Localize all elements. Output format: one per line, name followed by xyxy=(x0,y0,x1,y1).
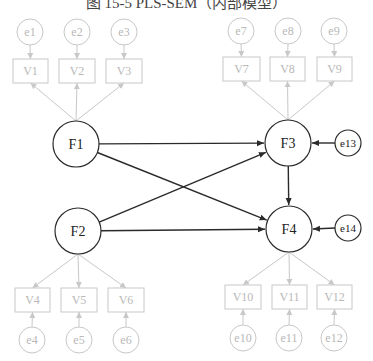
error-label: e9 xyxy=(328,24,339,38)
indicator-v11: V11e11 xyxy=(272,252,307,351)
error-label: e13 xyxy=(340,137,356,149)
loading-arrow xyxy=(33,254,79,288)
indicator-label: V2 xyxy=(70,64,85,78)
error-label: e3 xyxy=(118,25,129,39)
error-label: e10 xyxy=(234,331,251,345)
error-arrow xyxy=(334,44,335,57)
error-label: e2 xyxy=(71,25,82,39)
latent-label: F1 xyxy=(69,137,84,152)
loading-arrow xyxy=(78,254,79,288)
error-arrow xyxy=(334,309,335,325)
indicator-label: V8 xyxy=(280,62,295,76)
latent-f1: F1 xyxy=(53,121,99,167)
structural-error-e14: e14 xyxy=(313,215,361,241)
measurement-model: V1e1V2e2V3e3V4e4V5e5V6e6V7e7V8e8V9e9V10e… xyxy=(13,18,352,353)
path-f2-f4 xyxy=(101,229,265,231)
error-label: e12 xyxy=(325,331,342,345)
loading-arrow xyxy=(76,83,77,121)
loading-arrow xyxy=(242,81,289,120)
error-arrow xyxy=(30,45,31,59)
indicator-v8: V8e8 xyxy=(270,18,305,120)
indicator-v2: V2e2 xyxy=(59,19,95,121)
error-label: e6 xyxy=(120,333,131,347)
error-label: e5 xyxy=(73,333,84,347)
loading-arrow xyxy=(78,254,126,288)
error-label: e8 xyxy=(282,24,293,38)
error-label: e4 xyxy=(26,333,37,347)
indicator-label: V10 xyxy=(233,290,254,304)
indicator-label: V9 xyxy=(327,62,342,76)
error-label: e7 xyxy=(235,24,246,38)
error-arrow xyxy=(289,309,290,325)
error-arrow xyxy=(288,44,289,57)
latent-f3: F3 xyxy=(265,120,311,166)
latent-label: F4 xyxy=(282,222,297,237)
structural-error-e13: e13 xyxy=(312,130,361,156)
indicator-v5: V5e5 xyxy=(61,254,97,353)
loading-arrow xyxy=(288,81,289,120)
indicator-label: V1 xyxy=(23,64,38,78)
error-label: e1 xyxy=(24,25,35,39)
indicator-label: V3 xyxy=(117,64,132,78)
loading-arrow xyxy=(243,252,289,285)
indicator-label: V6 xyxy=(119,293,134,307)
error-label: e14 xyxy=(340,222,356,234)
loading-arrow xyxy=(76,83,124,121)
indicator-label: V12 xyxy=(324,290,345,304)
structural-model: e13e14F1F2F3F4 xyxy=(53,120,361,254)
error-label: e11 xyxy=(281,331,298,345)
loading-arrow xyxy=(31,83,77,121)
error-arrow xyxy=(241,44,242,57)
indicator-label: V11 xyxy=(279,290,299,304)
loading-arrow xyxy=(289,252,335,285)
latent-f4: F4 xyxy=(266,206,312,252)
loading-arrow xyxy=(288,81,335,120)
pls-sem-diagram: V1e1V2e2V3e3V4e4V5e5V6e6V7e7V8e8V9e9V10e… xyxy=(0,0,373,361)
indicator-label: V4 xyxy=(25,293,40,307)
indicator-label: V7 xyxy=(234,62,249,76)
error-arrow xyxy=(313,228,335,229)
error-arrow xyxy=(32,312,33,327)
latent-label: F2 xyxy=(71,224,86,239)
indicator-label: V5 xyxy=(72,293,87,307)
latent-label: F3 xyxy=(281,136,296,151)
path-f1-f3 xyxy=(99,143,264,144)
latent-f2: F2 xyxy=(55,208,101,254)
loading-arrow xyxy=(289,252,290,285)
